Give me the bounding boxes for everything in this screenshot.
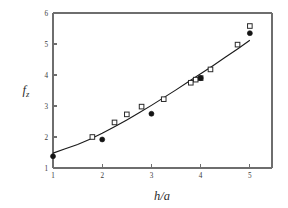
y-tick-label: 5 [44,41,48,49]
y-tick-label: 6 [44,10,48,18]
data-point-filled-circle [100,137,105,142]
fit-curve-group [53,40,250,153]
fitted-curve-path [53,40,250,153]
data-point-filled-circle [149,111,154,116]
x-tick-label: 5 [248,172,252,180]
data-point-filled-circle [51,154,56,159]
data-point-filled-circle [247,31,252,36]
data-point-open-square [161,97,166,102]
data-point-open-square [112,120,117,125]
y-tick-label: 4 [44,72,48,80]
data-point-open-square [193,77,198,82]
filled-circle-markers-group [51,31,253,159]
y-tick-label: 2 [44,134,48,142]
data-point-open-square [235,42,240,47]
tick-labels-group: 12345123456 [44,10,252,180]
y-axis-title: fz [23,83,30,99]
data-point-open-square [248,24,253,29]
figure-container: 12345123456 h/a fz [0,0,288,208]
x-axis-title: h/a [154,189,170,203]
x-tick-label: 2 [100,172,104,180]
x-tick-label: 4 [199,172,203,180]
y-tick-label: 3 [44,103,48,111]
scatter-plot: 12345123456 h/a fz [0,0,288,208]
data-point-open-square [139,104,144,109]
x-tick-label: 3 [150,172,154,180]
data-point-open-square [189,80,194,85]
data-point-open-square [90,135,95,140]
data-point-open-square [125,112,130,117]
axes-group [53,13,272,168]
open-square-markers-group [90,24,252,140]
y-axis-title-subscript: z [25,89,30,99]
ticks-group [53,13,250,168]
data-point-open-square [208,67,213,72]
data-point-filled-circle [198,76,203,81]
x-tick-label: 1 [51,172,55,180]
y-tick-label: 1 [44,165,48,173]
